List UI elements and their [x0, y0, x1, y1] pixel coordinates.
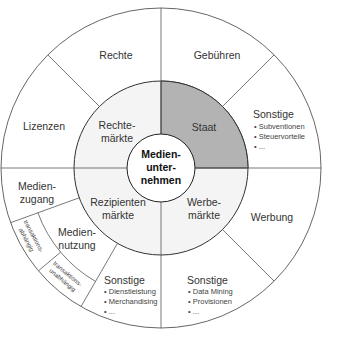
market-rezipientenmaerkte-2: märkte — [102, 209, 134, 221]
center-label-1: Medien- — [141, 148, 181, 160]
bullet-merchandising: • Merchandising — [104, 297, 158, 306]
market-rezipientenmaerkte-1: Rezipienten — [90, 196, 146, 208]
bullet-provisionen: • Provisionen — [188, 297, 232, 306]
center-label-3: nehmen — [141, 174, 181, 186]
source-medienzugang-2: zugang — [20, 193, 55, 205]
bullet-dienstleistung: • Dienstleistung — [104, 287, 156, 296]
source-werbung: Werbung — [251, 211, 294, 223]
market-werbemaerkte-1: Werbe- — [187, 196, 222, 208]
source-rechte: Rechte — [99, 49, 132, 61]
source-sonstige-werbung: Sonstige — [187, 274, 228, 286]
market-rechtemaerkte-1: Rechte- — [99, 119, 136, 131]
source-sonstige-rezipienten: Sonstige — [104, 274, 145, 286]
center-label-2: unter- — [146, 161, 176, 173]
source-sonstige-staat: Sonstige — [253, 108, 294, 120]
bullet-more-rezipienten: • ... — [104, 307, 115, 316]
source-mediennutzung-2: nutzung — [58, 239, 96, 251]
bullet-more-werbung: • ... — [188, 307, 199, 316]
bullet-more-staat: • ... — [254, 142, 265, 151]
market-staat: Staat — [192, 121, 217, 133]
bullet-data-mining: • Data Mining — [188, 287, 233, 296]
source-gebuehren: Gebühren — [194, 49, 241, 61]
market-werbemaerkte-2: märkte — [188, 209, 220, 221]
source-lizenzen: Lizenzen — [23, 120, 65, 132]
bullet-subventionen: • Subventionen — [254, 122, 305, 131]
source-mediennutzung-1: Medien- — [58, 226, 96, 238]
media-company-revenue-diagram: Medien- unter- nehmen Rechte- märkte Sta… — [0, 0, 349, 340]
market-rechtemaerkte-2: märkte — [101, 132, 133, 144]
source-medienzugang-1: Medien- — [18, 180, 56, 192]
bullet-steuervorteile: • Steuervorteile — [254, 132, 305, 141]
